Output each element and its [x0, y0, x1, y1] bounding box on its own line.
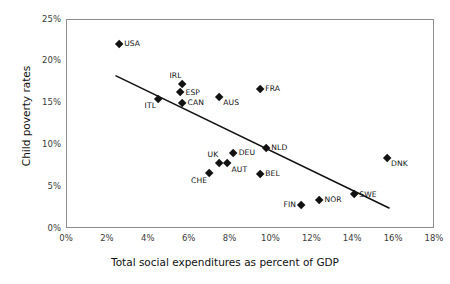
data-point-label: CAN: [188, 99, 204, 107]
data-point-label: FRA: [265, 85, 280, 93]
data-point-label: FIN: [284, 201, 297, 209]
data-point-label: BEL: [265, 170, 280, 178]
data-point-label: SWE: [359, 191, 376, 199]
x-axis-label: Total social expenditures as percent of …: [0, 256, 450, 268]
diamond-marker-icon: [256, 85, 265, 94]
diamond-marker-icon: [262, 143, 271, 152]
diamond-marker-icon: [115, 40, 124, 49]
scatter-chart-figure: 0%5%10%15%20%25% 0%2%4%6%8%10%12%14%16%1…: [0, 0, 450, 284]
data-point-label: DEU: [239, 149, 256, 157]
data-point-label: USA: [124, 40, 140, 48]
data-point-label: UK: [208, 151, 219, 159]
diamond-marker-icon: [256, 170, 265, 179]
data-points-layer: USAITLESPIRLCANCHEUKAUSAUTDEUFRABELNLDFI…: [0, 0, 450, 284]
data-point-label: IRL: [169, 72, 181, 80]
data-point-label: NOR: [325, 196, 342, 204]
data-point-label: NLD: [271, 144, 287, 152]
diamond-marker-icon: [350, 190, 359, 199]
diamond-marker-icon: [178, 99, 187, 108]
diamond-marker-icon: [176, 88, 185, 97]
diamond-marker-icon: [297, 201, 306, 210]
data-point-label: AUS: [223, 99, 239, 107]
data-point-label: ESP: [185, 89, 200, 97]
data-point-label: AUT: [232, 166, 248, 174]
y-axis-label: Child poverty rates: [20, 46, 32, 186]
data-point-label: DNK: [391, 160, 408, 168]
diamond-marker-icon: [229, 148, 238, 157]
data-point-label: ITL: [145, 102, 156, 110]
diamond-marker-icon: [315, 196, 324, 205]
data-point-label: CHE: [191, 177, 207, 185]
